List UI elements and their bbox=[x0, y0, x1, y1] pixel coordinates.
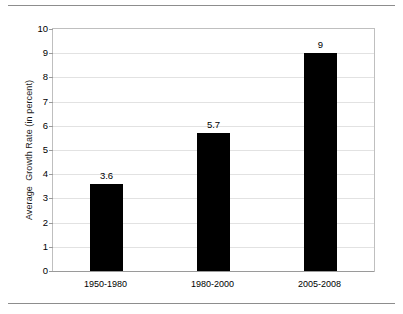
y-tickmark-4 bbox=[49, 174, 53, 175]
y-tickmark-8 bbox=[49, 77, 53, 78]
y-tick-label-7: 7 bbox=[14, 97, 48, 107]
bar-value-label-1950-1980: 3.6 bbox=[77, 170, 137, 181]
y-tick-label-4: 4 bbox=[14, 169, 48, 179]
x-axis-label-1980-2000: 1980-2000 bbox=[163, 278, 263, 290]
gridline-0 bbox=[53, 271, 374, 272]
y-tickmark-0 bbox=[49, 271, 53, 272]
y-tick-label-8: 8 bbox=[14, 72, 48, 82]
y-tickmark-2 bbox=[49, 223, 53, 224]
x-axis-labels: 1950-19801980-20002005-2008 bbox=[52, 278, 375, 294]
y-tick-label-10: 10 bbox=[14, 24, 48, 34]
y-tick-label-6: 6 bbox=[14, 121, 48, 131]
page-rule-top bbox=[8, 5, 395, 6]
bar-value-label-1980-2000: 5.7 bbox=[184, 119, 244, 130]
y-tick-label-1: 1 bbox=[14, 242, 48, 252]
y-tickmark-5 bbox=[49, 150, 53, 151]
y-tickmark-9 bbox=[49, 53, 53, 54]
bar-2005-2008[interactable]: 9 bbox=[304, 53, 337, 271]
bar-value-label-2005-2008: 9 bbox=[291, 39, 351, 50]
y-tickmark-3 bbox=[49, 198, 53, 199]
y-tickmark-7 bbox=[49, 102, 53, 103]
plot-area: 1098765432103.65.79 bbox=[52, 28, 375, 272]
y-tickmark-6 bbox=[49, 126, 53, 127]
y-tick-label-3: 3 bbox=[14, 193, 48, 203]
y-tick-label-2: 2 bbox=[14, 218, 48, 228]
y-tickmark-10 bbox=[49, 29, 53, 30]
y-tick-label-9: 9 bbox=[14, 48, 48, 58]
x-axis-label-1950-1980: 1950-1980 bbox=[56, 278, 156, 290]
bar-1950-1980[interactable]: 3.6 bbox=[90, 184, 123, 271]
y-tick-label-0: 0 bbox=[14, 266, 48, 276]
y-tickmark-1 bbox=[49, 247, 53, 248]
page-rule-bottom bbox=[8, 303, 395, 304]
bar-1980-2000[interactable]: 5.7 bbox=[197, 133, 230, 271]
x-axis-label-2005-2008: 2005-2008 bbox=[270, 278, 370, 290]
bar-chart-figure: Average Growth Rate (in percent) 1098765… bbox=[0, 10, 403, 300]
y-tick-label-5: 5 bbox=[14, 145, 48, 155]
